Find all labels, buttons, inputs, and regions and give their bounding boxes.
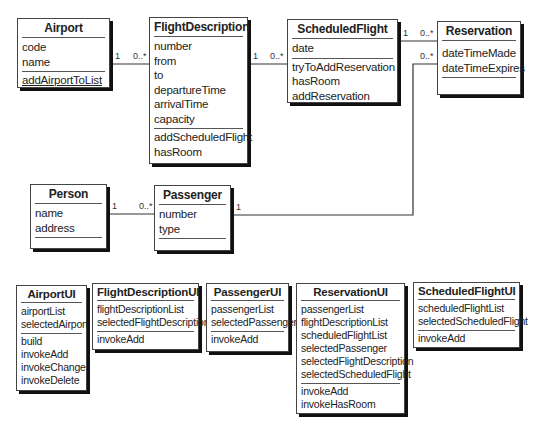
attributes-section: number from to departureTime arrivalTime… [154, 38, 243, 129]
class-flight-description-ui[interactable]: FlightDescriptionUI flightDescriptionLis… [92, 283, 199, 350]
mult-airport-1: 1 [115, 51, 120, 61]
class-title: ScheduledFlightUI [418, 283, 515, 300]
attribute: flightDescriptionList [97, 303, 194, 316]
attributes-section: name address [35, 205, 102, 238]
attribute: selectedScheduledFlight [301, 368, 400, 381]
operation: invokeAdd [97, 333, 194, 346]
class-title: FlightDescription [154, 18, 243, 37]
mult-scheduledflight-many: 0..* [270, 51, 284, 61]
mult-flightdescription-1: 1 [253, 51, 258, 61]
class-person[interactable]: Person name address [30, 184, 107, 249]
mult-passenger-many: 0..* [139, 201, 153, 211]
attribute: code [22, 40, 105, 55]
class-airport-ui[interactable]: AirportUI airportList selectedAirport bu… [16, 285, 87, 391]
operations-section: invokeAdd invokeHasRoom [301, 384, 400, 413]
attribute: date [292, 41, 393, 56]
attribute: capacity [154, 112, 243, 127]
operations-section [35, 238, 102, 255]
mult-person-1: 1 [112, 201, 117, 211]
operations-section: addScheduledFlight hasRoom [154, 129, 243, 161]
attribute: flightDescriptionList [301, 316, 400, 329]
attributes-section: dateTimeMade dateTimeExpires [442, 42, 516, 78]
operation: addScheduledFlight [154, 130, 243, 145]
operation: invokeDelete [21, 374, 82, 387]
attribute: selectedPassenger [301, 342, 400, 355]
attribute: selectedPassenger [211, 316, 284, 329]
operation: addAirportToList [22, 73, 105, 88]
attribute: selectedFlightDescription [97, 316, 194, 329]
mult-reservation-many-a: 0..* [420, 28, 434, 38]
class-title: AirportUI [21, 286, 82, 303]
attribute: from [154, 54, 243, 69]
class-title: ReservationUI [301, 284, 400, 301]
operations-section: addAirportToList [22, 72, 105, 90]
operation: hasRoom [154, 145, 243, 160]
operation: invokeAdd [418, 332, 515, 345]
class-reservation[interactable]: Reservation dateTimeMade dateTimeExpires [437, 21, 521, 95]
operations-section: invokeAdd [211, 332, 284, 348]
operations-section: build invokeAdd invokeChange invokeDelet… [21, 334, 82, 389]
mult-reservation-many-b: 0..* [420, 51, 434, 61]
attribute: selectedScheduledFlight [418, 315, 515, 328]
class-title: FlightDescriptionUI [97, 284, 194, 301]
attribute: type [159, 222, 226, 237]
class-airport[interactable]: Airport code name addAirportToList [17, 18, 110, 88]
class-passenger-ui[interactable]: PassengerUI passengerList selectedPassen… [206, 283, 289, 352]
attribute: number [159, 207, 226, 222]
operation: invokeAdd [301, 385, 400, 398]
attribute: passengerList [211, 303, 284, 316]
attributes-section: passengerList flightDescriptionList sche… [301, 302, 400, 384]
attribute: selectedAirport [21, 318, 82, 331]
attribute: address [35, 221, 102, 236]
class-title: ScheduledFlight [292, 20, 393, 39]
operation: tryToAddReservation [292, 60, 393, 75]
mult-passenger-1: 1 [236, 202, 241, 212]
class-passenger[interactable]: Passenger number type [154, 185, 231, 251]
class-title: Person [35, 185, 102, 204]
class-scheduled-flight-ui[interactable]: ScheduledFlightUI scheduledFlightList se… [413, 282, 520, 348]
attributes-section: scheduledFlightList selectedScheduledFli… [418, 301, 515, 331]
attributes-section: code name [22, 39, 105, 72]
class-title: Passenger [159, 186, 226, 205]
operations-section: invokeAdd [418, 331, 515, 347]
attributes-section: passengerList selectedPassenger [211, 302, 284, 332]
operations-section [159, 239, 226, 256]
attribute: name [22, 55, 105, 70]
attributes-section: date [292, 40, 393, 59]
operation: addReservation [292, 89, 393, 104]
operation: hasRoom [292, 74, 393, 89]
attribute: scheduledFlightList [301, 329, 400, 342]
attributes-section: number type [159, 206, 226, 239]
attribute: selectedFlightDescription [301, 355, 400, 368]
attribute: passengerList [301, 303, 400, 316]
class-flight-description[interactable]: FlightDescription number from to departu… [149, 17, 248, 164]
attribute: dateTimeExpires [442, 61, 516, 76]
attributes-section: flightDescriptionList selectedFlightDesc… [97, 302, 194, 332]
operation: invokeHasRoom [301, 398, 400, 411]
class-title: Reservation [442, 22, 516, 41]
operations-section: tryToAddReservation hasRoom addReservati… [292, 59, 393, 106]
operation: invokeAdd [21, 348, 82, 361]
operation: invokeChange [21, 361, 82, 374]
attribute: name [35, 206, 102, 221]
operation: build [21, 335, 82, 348]
class-title: PassengerUI [211, 284, 284, 301]
attributes-section: airportList selectedAirport [21, 304, 82, 334]
operations-section: invokeAdd [97, 332, 194, 348]
attribute: number [154, 39, 243, 54]
operation: invokeAdd [211, 333, 284, 346]
attribute: arrivalTime [154, 97, 243, 112]
attribute: scheduledFlightList [418, 302, 515, 315]
attribute: dateTimeMade [442, 46, 516, 61]
class-scheduled-flight[interactable]: ScheduledFlight date tryToAddReservation… [287, 19, 398, 103]
operations-section [442, 78, 516, 95]
attribute: to [154, 68, 243, 83]
mult-scheduledflight-1: 1 [403, 28, 408, 38]
mult-flightdescription-many: 0..* [133, 51, 147, 61]
class-title: Airport [22, 19, 105, 38]
class-reservation-ui[interactable]: ReservationUI passengerList flightDescri… [296, 283, 405, 414]
attribute: departureTime [154, 83, 243, 98]
attribute: airportList [21, 305, 82, 318]
